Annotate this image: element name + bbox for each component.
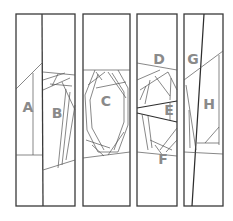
label-b: B — [52, 105, 63, 121]
b-line — [62, 92, 70, 165]
c-line — [108, 132, 124, 155]
b-line — [58, 89, 66, 168]
f-line — [148, 116, 152, 148]
c-left-inner — [90, 74, 104, 150]
label-d: D — [153, 51, 165, 67]
f-line — [142, 114, 148, 150]
label-a: A — [23, 99, 34, 115]
f-bottom — [137, 152, 177, 156]
d-line — [170, 78, 171, 100]
label-c: C — [101, 93, 111, 109]
panel-4: G H — [184, 14, 223, 206]
panel-1-divider — [42, 14, 43, 206]
c-bottom — [83, 152, 130, 158]
h-line — [189, 110, 190, 148]
f-line — [160, 128, 177, 150]
h-line — [186, 85, 196, 150]
panel-2-frame — [83, 14, 130, 206]
c-line — [96, 82, 126, 88]
h-bottom — [184, 152, 223, 154]
label-f: F — [158, 151, 168, 167]
c-line — [88, 72, 105, 85]
c-line — [86, 140, 110, 148]
h-line — [205, 127, 219, 143]
panel-2: C — [83, 14, 130, 206]
d-line — [155, 76, 170, 96]
quilt-diagram: A B C — [0, 0, 233, 221]
panel-3: D E F — [137, 14, 177, 206]
label-e: E — [164, 102, 174, 118]
d-line — [168, 72, 177, 90]
b-line — [43, 78, 70, 90]
a-diagonal — [16, 63, 42, 89]
label-g: G — [187, 51, 199, 67]
c-line — [96, 72, 102, 80]
b-line — [43, 73, 65, 80]
panel-1: A B — [16, 14, 75, 206]
d-line — [145, 80, 150, 104]
label-h: H — [203, 96, 215, 112]
